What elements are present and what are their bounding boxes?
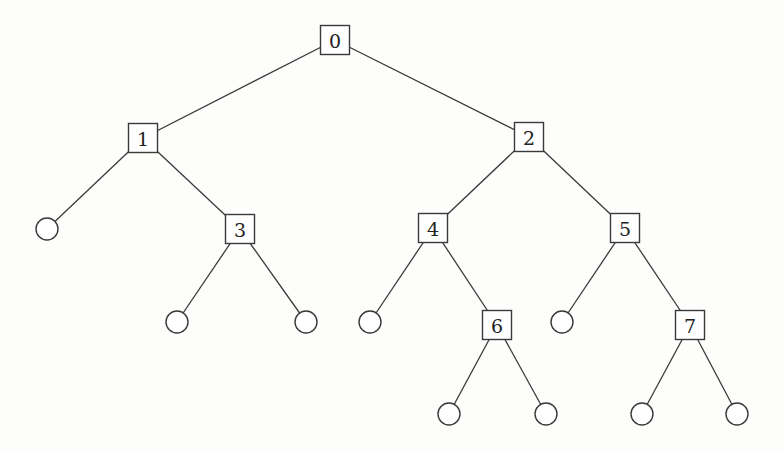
internal-node-6: 6 [483, 311, 512, 340]
internal-node-4: 4 [419, 214, 448, 243]
binary-tree-diagram: 01234567 [0, 0, 784, 450]
internal-node-0: 0 [321, 26, 350, 55]
internal-node-2: 2 [515, 123, 544, 152]
leaf-node-L3a [166, 311, 188, 333]
node-label: 5 [619, 218, 631, 240]
leaf-node-L5 [551, 311, 573, 333]
internal-node-1: 1 [129, 124, 158, 153]
leaf-node-L3b [295, 311, 317, 333]
node-label: 3 [234, 219, 246, 241]
leaf-node-L6b [535, 403, 557, 425]
node-label: 4 [427, 218, 439, 240]
node-label: 6 [491, 315, 503, 337]
leaf-node-L1 [36, 218, 58, 240]
leaf-node-L4 [359, 311, 381, 333]
node-label: 1 [137, 128, 149, 150]
edge-0-1 [143, 40, 335, 138]
edge-0-2 [335, 40, 529, 137]
internal-node-3: 3 [226, 215, 255, 244]
internal-node-7: 7 [676, 311, 705, 340]
node-label: 7 [684, 315, 696, 337]
node-label: 0 [329, 30, 341, 52]
leaf-node-L7a [631, 403, 653, 425]
node-label: 2 [523, 127, 535, 149]
nodes-layer: 01234567 [36, 26, 748, 426]
internal-node-5: 5 [611, 214, 640, 243]
leaf-node-L7b [726, 403, 748, 425]
leaf-node-L6a [438, 403, 460, 425]
